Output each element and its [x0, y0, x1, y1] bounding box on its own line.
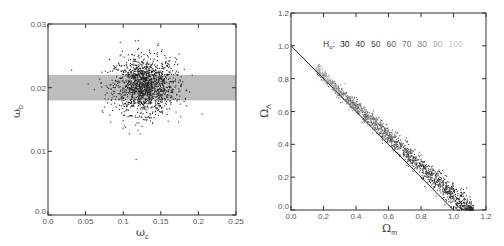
x-tick-label: 0.15 — [153, 217, 169, 226]
flat-universe-line — [291, 46, 454, 210]
legend-entry-h0-80: 80 — [418, 39, 428, 49]
x-tick-label: 0.2 — [318, 212, 330, 221]
x-tick-label: 1.0 — [448, 212, 460, 221]
y-tick-label: 0.0 — [278, 202, 290, 211]
y-tick-label: 0.4 — [278, 140, 290, 149]
right-plot: 0.00.20.40.60.81.01.20.00.20.40.60.81.01… — [258, 9, 492, 236]
x-tick-label: 0.0 — [42, 217, 54, 226]
y-tick-label: 0.6 — [278, 108, 290, 117]
x-tick-label: 0.0 — [285, 212, 297, 221]
legend-entry-h0-50: 50 — [371, 39, 381, 49]
legend-entry-h0-40: 40 — [356, 39, 366, 49]
legend-entry-h0-70: 70 — [402, 39, 412, 49]
right-x-axis-label: Ωm — [382, 222, 397, 236]
legend-entry-h0-90: 90 — [433, 39, 443, 49]
left-x-axis-label: ωc — [136, 226, 149, 240]
legend-entry-h0-60: 60 — [387, 39, 397, 49]
x-tick-label: 0.05 — [78, 217, 94, 226]
left-y-axis-label: ωb — [10, 105, 24, 118]
x-tick-label: 0.4 — [350, 212, 362, 221]
y-tick-label: 0.2 — [278, 173, 290, 182]
left-plot-frame — [48, 24, 236, 215]
x-tick-label: 0.2 — [193, 217, 205, 226]
legend-entry-h0-100: 100 — [449, 39, 463, 49]
y-tick-label: 0.8 — [278, 75, 290, 84]
figure: 0.00.050.10.150.20.250.00.010.020.03 ωb … — [0, 0, 504, 246]
y-tick-label: 1.2 — [278, 9, 290, 18]
right-y-axis-label: ΩΛ — [258, 104, 272, 118]
right-scatter-points — [315, 64, 474, 211]
y-tick-label: 0.01 — [30, 147, 46, 156]
x-tick-label: 0.1 — [118, 217, 130, 226]
x-tick-label: 0.6 — [383, 212, 395, 221]
y-tick-label: 1.0 — [278, 42, 290, 51]
x-tick-label: 0.25 — [228, 217, 244, 226]
x-tick-label: 0.8 — [415, 212, 427, 221]
y-tick-label: 0.0 — [35, 207, 47, 216]
hubble-constant-legend: Ho: 30405060708090100 — [323, 39, 463, 50]
x-tick-label: 1.2 — [480, 212, 492, 221]
y-tick-label: 0.03 — [30, 20, 46, 29]
y-tick-label: 0.02 — [30, 84, 46, 93]
legend-prefix: Ho: — [323, 39, 335, 50]
legend-entry-h0-30: 30 — [340, 39, 350, 49]
left-plot: 0.00.050.10.150.20.250.00.010.020.03 ωb … — [10, 20, 244, 240]
